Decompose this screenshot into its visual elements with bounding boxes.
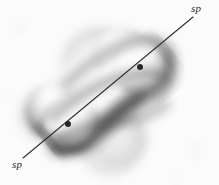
paper-texture xyxy=(0,0,219,185)
label-sp-top-right: sp xyxy=(191,3,201,14)
orbital-illustration xyxy=(0,0,219,185)
label-sp-bottom-left: sp xyxy=(12,159,22,170)
sp-orbital-figure: sp sp xyxy=(0,0,219,185)
